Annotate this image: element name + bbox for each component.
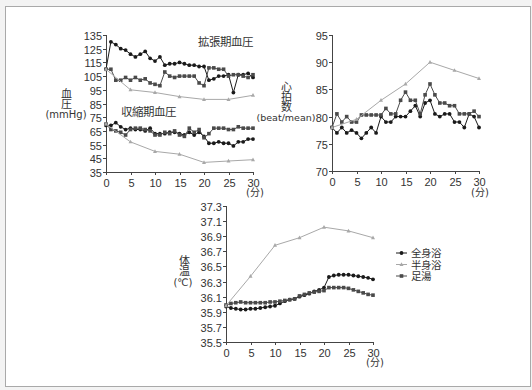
square-marker-icon <box>312 290 316 294</box>
square-marker-icon <box>192 130 196 134</box>
circle-marker-icon <box>433 112 437 116</box>
square-marker-icon <box>298 294 302 298</box>
square-marker-icon <box>129 78 133 82</box>
square-marker-icon <box>109 67 113 71</box>
square-marker-icon <box>212 126 216 130</box>
y-tick-label: 75 <box>316 139 328 151</box>
circle-marker-icon <box>234 307 238 311</box>
circle-marker-icon <box>148 56 152 60</box>
circle-marker-icon <box>352 274 356 278</box>
square-marker-icon <box>458 112 462 116</box>
square-marker-icon <box>188 74 192 78</box>
circle-marker-icon <box>227 141 231 145</box>
circle-marker-icon <box>232 91 236 95</box>
hr-x-unit: (分) <box>471 187 489 198</box>
circle-marker-icon <box>332 274 336 278</box>
circle-marker-icon <box>369 126 373 130</box>
square-marker-icon <box>293 297 297 301</box>
square-marker-icon <box>173 129 177 133</box>
x-tick-label: 0 <box>329 176 335 188</box>
square-marker-icon <box>173 76 177 80</box>
y-tick-label: 37.3 <box>201 201 222 213</box>
square-marker-icon <box>308 291 312 295</box>
circle-marker-icon <box>183 62 187 66</box>
y-tick-label: 65 <box>90 126 102 138</box>
circle-marker-icon <box>254 307 258 311</box>
circle-marker-icon <box>337 273 341 277</box>
square-marker-icon <box>139 78 143 82</box>
circle-marker-icon <box>134 55 138 59</box>
square-marker-icon <box>217 126 221 130</box>
x-tick-label: 15 <box>294 347 306 359</box>
circle-marker-icon <box>335 131 339 135</box>
square-marker-icon <box>263 301 267 305</box>
square-marker-icon <box>249 301 253 305</box>
circle-marker-icon <box>212 77 216 81</box>
circle-marker-icon <box>232 144 236 148</box>
square-marker-icon <box>332 286 336 290</box>
circle-marker-icon <box>428 98 432 102</box>
x-tick-label: 20 <box>318 347 330 359</box>
square-marker-icon <box>227 74 231 78</box>
square-marker-icon <box>134 76 138 80</box>
square-marker-icon <box>234 301 238 305</box>
square-marker-icon <box>379 113 383 117</box>
square-marker-icon <box>124 133 128 137</box>
circle-marker-icon <box>458 120 462 124</box>
circle-marker-icon <box>143 50 147 54</box>
square-marker-icon <box>361 291 365 295</box>
y-tick-label: 85 <box>90 99 102 111</box>
y-tick-label: 35.5 <box>201 337 222 349</box>
square-marker-icon <box>227 128 231 132</box>
circle-marker-icon <box>371 277 375 281</box>
y-tick-label: 55 <box>90 140 102 152</box>
circle-marker-icon <box>246 71 250 75</box>
circle-marker-icon <box>217 140 221 144</box>
square-marker-icon <box>183 135 187 139</box>
square-marker-icon <box>183 74 187 78</box>
circle-marker-icon <box>448 112 452 116</box>
square-marker-icon <box>178 74 182 78</box>
square-marker-icon <box>163 70 167 74</box>
temp-ylabel-unit: (℃) <box>173 277 192 288</box>
bp-upper-annotation: 拡張期血圧 <box>198 35 253 49</box>
square-marker-icon <box>433 93 437 97</box>
circle-marker-icon <box>114 43 118 47</box>
square-marker-icon <box>467 112 471 116</box>
y-tick-label: 95 <box>90 85 102 97</box>
circle-marker-icon <box>119 47 123 51</box>
square-marker-icon <box>246 76 250 80</box>
square-marker-icon <box>229 302 233 306</box>
square-marker-icon <box>168 74 172 78</box>
circle-marker-icon <box>364 131 368 135</box>
square-marker-icon <box>366 293 370 297</box>
square-marker-icon <box>365 113 369 117</box>
legend-label: 半身浴 <box>411 259 442 271</box>
square-marker-icon <box>237 125 241 129</box>
square-marker-icon <box>153 133 157 137</box>
circle-marker-icon <box>360 136 364 140</box>
circle-marker-icon <box>124 128 128 132</box>
circle-marker-icon <box>207 78 211 82</box>
square-marker-icon <box>217 67 221 71</box>
circle-marker-icon <box>356 274 360 278</box>
circle-marker-icon <box>207 141 211 145</box>
square-marker-icon <box>212 66 216 70</box>
circle-marker-icon <box>347 273 351 277</box>
x-tick-label: 0 <box>223 347 229 359</box>
square-marker-icon <box>254 301 258 305</box>
circle-marker-icon <box>399 115 403 119</box>
y-tick-label: 45 <box>90 153 102 165</box>
circle-marker-icon <box>217 74 221 78</box>
square-marker-icon <box>239 300 243 304</box>
square-marker-icon <box>202 136 206 140</box>
y-tick-label: 80 <box>316 112 328 124</box>
circle-marker-icon <box>462 126 466 130</box>
square-marker-icon <box>389 112 393 116</box>
y-tick-label: 115 <box>84 57 102 69</box>
circle-marker-icon <box>197 65 201 69</box>
square-marker-icon <box>207 132 211 136</box>
hr-ylabel-unit: (beat/mean) <box>257 112 316 123</box>
square-marker-icon <box>163 130 167 134</box>
square-marker-icon <box>241 126 245 130</box>
